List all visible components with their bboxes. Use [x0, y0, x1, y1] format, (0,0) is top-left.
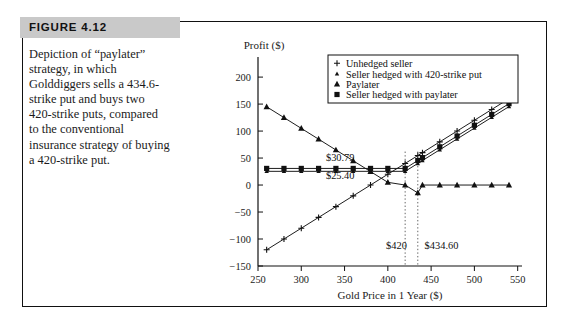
- point-marker: [454, 133, 459, 138]
- point-marker: [437, 139, 443, 145]
- chart-annotation: $30.79: [326, 152, 355, 163]
- series-line: [267, 107, 509, 172]
- series-seller-hedged-with-420-strike-put: [264, 104, 511, 173]
- point-marker: [281, 166, 286, 171]
- legend-label: Unhedged seller: [346, 58, 413, 69]
- x-tick-label: 250: [250, 274, 266, 285]
- y-tick-label: 100: [235, 126, 251, 137]
- y-tick-label: 150: [235, 99, 251, 110]
- point-marker: [471, 117, 477, 123]
- point-marker: [415, 158, 420, 163]
- point-marker: [437, 144, 442, 149]
- point-marker: [281, 114, 287, 120]
- series-line: [267, 104, 509, 169]
- figure-label: FIGURE 4.12: [20, 17, 180, 38]
- x-tick-label: 550: [510, 274, 526, 285]
- point-marker: [489, 112, 494, 117]
- point-marker: [415, 190, 421, 196]
- point-marker: [298, 125, 304, 131]
- point-marker: [472, 123, 477, 128]
- point-marker: [299, 166, 304, 171]
- point-marker: [368, 166, 373, 171]
- x-tick-label: 400: [380, 274, 396, 285]
- series-paylater: [264, 103, 513, 195]
- point-marker: [402, 160, 408, 166]
- chart-annotation: $434.60: [425, 240, 459, 251]
- x-tick-label: 500: [467, 274, 483, 285]
- point-marker: [385, 166, 390, 171]
- point-marker: [264, 103, 270, 109]
- legend-label: Seller hedged with paylater: [346, 89, 458, 100]
- point-marker: [264, 247, 270, 253]
- y-tick-label: 50: [241, 153, 251, 164]
- point-marker: [315, 136, 321, 142]
- figure-caption-block: FIGURE 4.12 Depiction of “paylater” stra…: [20, 17, 180, 168]
- y-tick-label: −50: [235, 207, 251, 218]
- point-marker: [454, 128, 460, 134]
- y-tick-label: 200: [235, 72, 251, 83]
- point-marker: [420, 155, 425, 160]
- series-unhedged-seller: [264, 96, 512, 253]
- point-marker: [316, 166, 321, 171]
- figure-screenshot: FIGURE 4.12 Depiction of “paylater” stra…: [0, 0, 570, 327]
- y-tick-label: −150: [230, 261, 251, 272]
- point-marker: [264, 166, 269, 171]
- x-tick-label: 350: [337, 274, 353, 285]
- chart-annotation: $420: [386, 240, 407, 251]
- chart-legend: Unhedged sellerSeller hedged with 420-st…: [328, 55, 518, 103]
- y-tick-label: −100: [230, 234, 251, 245]
- figure-caption-text: Depiction of “paylater” strategy, in whi…: [20, 38, 180, 168]
- point-marker: [385, 179, 391, 185]
- point-marker: [333, 204, 339, 210]
- legend-label: Seller hedged with 420-strike put: [346, 69, 482, 80]
- point-marker: [489, 106, 495, 112]
- x-axis-title: Gold Price in 1 Year ($): [337, 289, 442, 302]
- series-seller-hedged-with-paylater: [264, 101, 512, 171]
- profit-vs-gold-price-chart: −150−100−5005010015020025030035040045050…: [210, 24, 540, 304]
- point-marker: [419, 150, 425, 156]
- point-marker: [281, 236, 287, 242]
- point-marker: [403, 166, 408, 171]
- chart-plot-area: −150−100−5005010015020025030035040045050…: [210, 24, 540, 304]
- y-axis-title: Profit ($): [244, 39, 285, 52]
- x-tick-label: 300: [293, 274, 309, 285]
- chart-annotation: $25.40: [326, 170, 355, 181]
- point-marker: [298, 225, 304, 231]
- point-marker: [316, 214, 322, 220]
- point-marker: [350, 193, 356, 199]
- x-tick-label: 450: [423, 274, 439, 285]
- point-marker: [334, 92, 339, 97]
- point-marker: [368, 182, 374, 188]
- legend-label: Paylater: [346, 79, 380, 90]
- y-tick-label: 0: [246, 180, 251, 191]
